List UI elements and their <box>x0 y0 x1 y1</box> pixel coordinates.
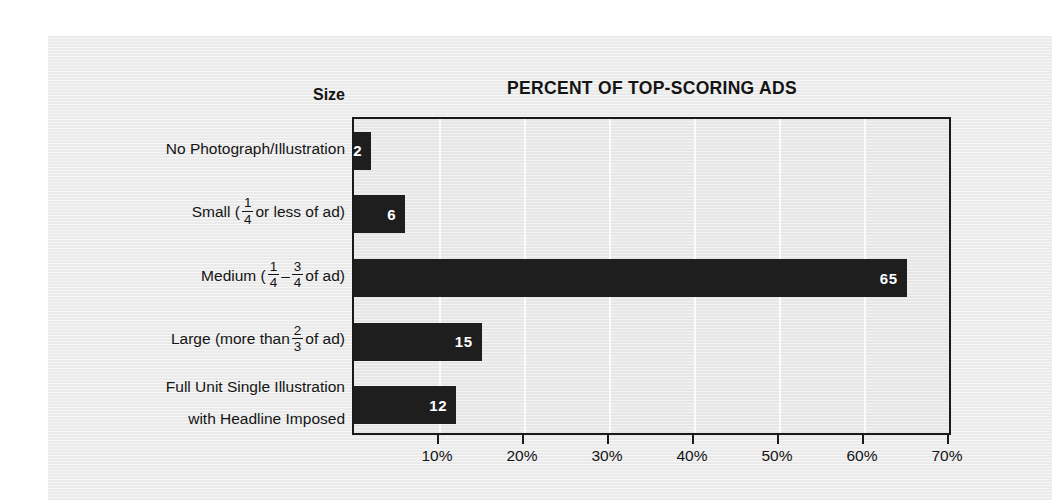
fraction-denominator: 4 <box>242 212 254 227</box>
label-text: – <box>281 267 290 285</box>
bar-value-label: 65 <box>880 270 907 287</box>
category-label-line: with Headline Imposed <box>52 410 345 428</box>
x-tick-label: 40% <box>676 447 707 465</box>
fraction: 23 <box>292 324 304 354</box>
category-label-large: Large (more than 23 of ad) <box>52 308 352 372</box>
label-text: Full Unit Single Illustration <box>166 378 345 396</box>
bar-no-photograph: 2 <box>354 132 371 170</box>
fraction-denominator: 3 <box>292 339 304 354</box>
label-text: Small ( <box>192 203 240 221</box>
bar-large: 15 <box>354 323 482 361</box>
x-tick-10 <box>437 435 439 444</box>
fraction: 14 <box>242 196 254 226</box>
label-text: Medium ( <box>201 267 266 285</box>
x-tick-60 <box>862 435 864 444</box>
x-tick-30 <box>607 435 609 444</box>
label-text: Large (more than <box>171 330 290 348</box>
x-tick-40 <box>692 435 694 444</box>
x-tick-70 <box>947 435 949 444</box>
category-label-line: No Photograph/Illustration <box>52 140 345 158</box>
category-axis-labels: No Photograph/IllustrationSmall (14 or l… <box>45 117 352 435</box>
category-label-line: Full Unit Single Illustration <box>52 378 345 396</box>
chart-title: PERCENT OF TOP-SCORING ADS <box>352 78 952 99</box>
bar-rect <box>354 259 907 297</box>
category-label-line: Small (14 or less of ad) <box>52 197 345 227</box>
bar-value-label: 12 <box>429 397 456 414</box>
fraction-numerator: 1 <box>268 260 280 276</box>
bar-small: 6 <box>354 195 405 233</box>
fraction-numerator: 1 <box>242 196 254 212</box>
category-label-small: Small (14 or less of ad) <box>52 181 352 245</box>
bar-value-label: 6 <box>387 206 405 223</box>
label-text: with Headline Imposed <box>188 410 345 428</box>
label-text: No Photograph/Illustration <box>166 140 345 158</box>
x-tick-20 <box>522 435 524 444</box>
fraction-denominator: 4 <box>268 275 280 290</box>
category-label-full-unit: Full Unit Single Illustrationwith Headli… <box>52 371 352 435</box>
bar-full-unit: 12 <box>354 386 456 424</box>
category-label-no-photograph: No Photograph/Illustration <box>52 117 352 181</box>
label-text: of ad) <box>305 267 345 285</box>
bar-value-label: 2 <box>353 142 371 159</box>
category-label-line: Medium (14 – 34 of ad) <box>52 261 345 291</box>
category-label-line: Large (more than 23 of ad) <box>52 325 345 355</box>
chart-figure: PERCENT OF TOP-SCORING ADS Size No Photo… <box>0 0 1052 500</box>
category-label-medium: Medium (14 – 34 of ad) <box>52 244 352 308</box>
x-tick-50 <box>777 435 779 444</box>
plot-area: 26651512 <box>352 117 951 435</box>
fraction-numerator: 3 <box>292 260 304 276</box>
fraction-numerator: 2 <box>292 324 304 340</box>
x-tick-label: 20% <box>506 447 537 465</box>
x-tick-label: 70% <box>931 447 962 465</box>
x-tick-label: 10% <box>421 447 452 465</box>
x-tick-label: 30% <box>591 447 622 465</box>
x-axis: 10%20%30%40%50%60%70% <box>352 435 951 475</box>
fraction: 34 <box>292 260 304 290</box>
x-tick-label: 60% <box>846 447 877 465</box>
category-axis-title: Size <box>235 86 345 104</box>
label-text: or less of ad) <box>255 203 345 221</box>
label-text: of ad) <box>305 330 345 348</box>
fraction-denominator: 4 <box>292 275 304 290</box>
bar-medium: 65 <box>354 259 907 297</box>
x-tick-label: 50% <box>761 447 792 465</box>
fraction: 14 <box>268 260 280 290</box>
bar-value-label: 15 <box>455 333 482 350</box>
